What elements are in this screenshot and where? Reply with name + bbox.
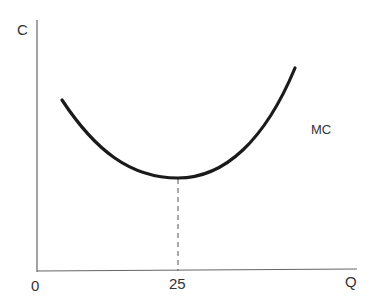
x-axis-label: Q (345, 274, 357, 289)
x-tick-label: 25 (169, 276, 186, 291)
x-axis (37, 269, 357, 271)
mc-curve-label: MC (311, 123, 331, 136)
chart-canvas (0, 0, 373, 306)
mc-curve (62, 68, 295, 178)
origin-label: 0 (31, 278, 39, 293)
y-axis-label: C (17, 22, 28, 37)
